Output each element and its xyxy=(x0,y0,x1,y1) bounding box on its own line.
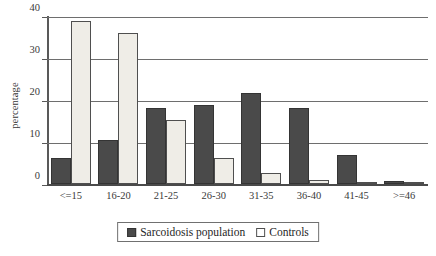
y-tick-label-20: 20 xyxy=(30,86,41,97)
bar-group-21-25 xyxy=(142,16,190,184)
bar-controls-21-25 xyxy=(166,120,186,185)
bar-sarcoidosis-21-25 xyxy=(146,108,166,184)
y-tick-label-0: 0 xyxy=(35,170,40,181)
x-tick-label-26-30: 26-30 xyxy=(190,190,238,201)
bar-sarcoidosis-41-45 xyxy=(337,155,357,185)
bar-controls->=46 xyxy=(404,182,424,184)
x-tick-label-<=15: <=15 xyxy=(47,190,95,201)
bar-sarcoidosis-31-35 xyxy=(241,93,261,185)
x-axis-line xyxy=(47,184,428,186)
x-tick-label-16-20: 16-20 xyxy=(95,190,143,201)
y-tick-label-40: 40 xyxy=(30,2,41,13)
bar-group->=46 xyxy=(380,16,428,184)
plot-area: 010203040 xyxy=(47,18,428,186)
bar-controls-31-35 xyxy=(261,173,281,185)
bar-group-16-20 xyxy=(95,16,143,184)
bar-sarcoidosis-26-30 xyxy=(194,105,214,184)
bar-controls-<=15 xyxy=(71,21,91,184)
bar-sarcoidosis->=46 xyxy=(384,181,404,185)
bar-group-41-45 xyxy=(333,16,381,184)
y-axis-title-label: percentage xyxy=(9,82,20,128)
legend-swatch-filled-square-icon xyxy=(127,228,136,237)
legend-label-sarcoidosis: Sarcoidosis population xyxy=(140,226,245,238)
x-tick-label->=46: >=46 xyxy=(380,190,428,201)
bar-controls-16-20 xyxy=(118,33,138,184)
bar-controls-36-40 xyxy=(309,180,329,185)
bar-sarcoidosis-16-20 xyxy=(98,140,118,185)
x-tick-label-36-40: 36-40 xyxy=(285,190,333,201)
legend-swatch-open-square-icon xyxy=(256,228,265,237)
x-tick-label-31-35: 31-35 xyxy=(238,190,286,201)
x-tick-label-41-45: 41-45 xyxy=(333,190,381,201)
legend-label-controls: Controls xyxy=(269,226,309,238)
x-tick-label-21-25: 21-25 xyxy=(142,190,190,201)
x-axis-tick-labels: <=1516-2021-2526-3031-3536-4041-45>=46 xyxy=(47,190,428,201)
bar-controls-26-30 xyxy=(214,158,234,184)
bar-chart-figure: percentage 010203040 <=1516-2021-2526-30… xyxy=(0,0,436,256)
bar-sarcoidosis-<=15 xyxy=(51,158,71,184)
bar-groups xyxy=(47,16,428,184)
bar-controls-41-45 xyxy=(357,182,377,184)
bar-group-31-35 xyxy=(238,16,286,184)
y-tick-mark-0 xyxy=(42,185,47,186)
y-axis-title: percentage xyxy=(6,60,22,150)
legend-item-sarcoidosis: Sarcoidosis population xyxy=(127,226,245,238)
bar-group-<=15 xyxy=(47,16,95,184)
y-tick-label-10: 10 xyxy=(30,128,41,139)
legend-item-controls: Controls xyxy=(256,226,309,238)
y-tick-label-30: 30 xyxy=(30,44,41,55)
bar-group-36-40 xyxy=(285,16,333,184)
chart-legend: Sarcoidosis population Controls xyxy=(117,222,319,242)
bar-sarcoidosis-36-40 xyxy=(289,108,309,184)
bar-group-26-30 xyxy=(190,16,238,184)
